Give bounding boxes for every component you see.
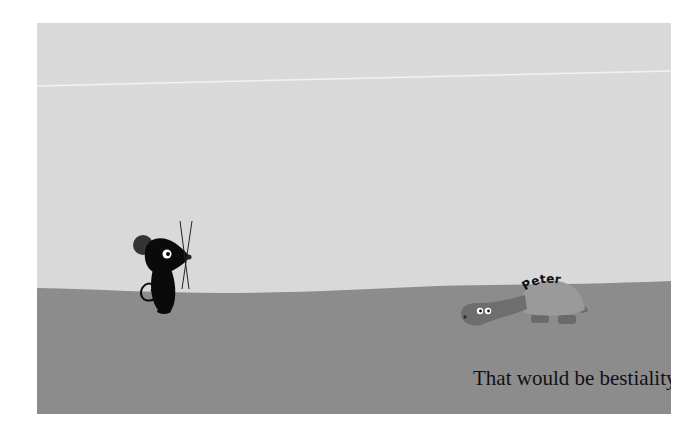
mouse-foot [157, 308, 171, 314]
scene-illustration: Peter [37, 23, 671, 414]
turtle-leg [558, 315, 576, 324]
caption-text: That would be bestiality. [473, 366, 671, 391]
comic-panel: Peter That would be bestiality. [37, 23, 671, 414]
